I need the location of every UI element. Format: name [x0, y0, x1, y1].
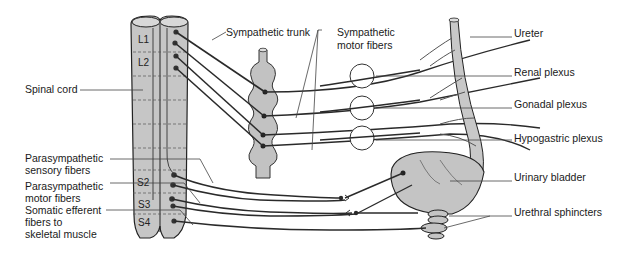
label-parasympathetic-motor-line2: motor fibers [25, 193, 80, 205]
label-parasympathetic-sensory-line2: sensory fibers [25, 165, 90, 177]
label-spinal-cord: Spinal cord [25, 84, 78, 96]
label-ureter: Ureter [514, 28, 543, 40]
sympathetic-motor-fibers [263, 40, 540, 150]
label-hypogastric-plexus: Hypogastric plexus [514, 133, 603, 145]
label-parasympathetic-sensory-line1: Parasympathetic [25, 153, 103, 165]
segment-s4: S4 [138, 217, 150, 228]
label-gonadal-plexus: Gonadal plexus [514, 99, 587, 111]
segment-l2: L2 [138, 57, 149, 68]
urinary-bladder [391, 152, 484, 214]
label-sympathetic-motor-fibers-line2: motor fibers [337, 40, 392, 52]
segment-s3: S3 [138, 199, 150, 210]
sacral-fibers [172, 173, 426, 230]
label-sympathetic-trunk: Sympathetic trunk [226, 27, 310, 39]
sympathetic-trunk [248, 48, 278, 178]
urethral-sphincters [421, 210, 448, 239]
label-renal-plexus: Renal plexus [514, 67, 575, 79]
segment-l1: L1 [138, 34, 149, 45]
label-urethral-sphincters: Urethral sphincters [514, 207, 602, 219]
label-somatic-efferent-line2: fibers to [25, 217, 62, 229]
label-sympathetic-motor-fibers-line1: Sympathetic [337, 27, 395, 39]
label-somatic-efferent-line3: skeletal muscle [25, 229, 97, 241]
label-somatic-efferent-line1: Somatic efferent [25, 205, 101, 217]
segment-s2: S2 [137, 177, 149, 188]
label-parasympathetic-motor-line1: Parasympathetic [25, 181, 103, 193]
label-urinary-bladder: Urinary bladder [514, 172, 586, 184]
